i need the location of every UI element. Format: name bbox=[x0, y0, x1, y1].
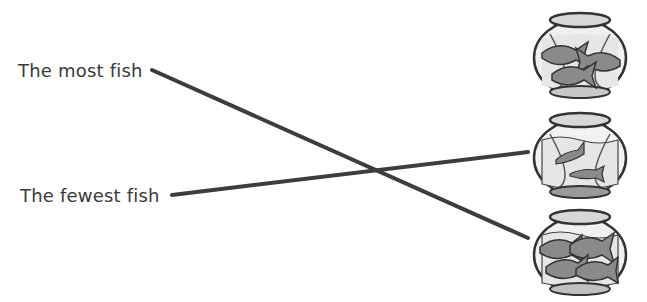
fishbowl-four-fish[interactable] bbox=[530, 205, 630, 297]
fishbowl-three-fish[interactable] bbox=[530, 8, 630, 100]
match-line-most bbox=[152, 70, 528, 238]
fish-icon bbox=[540, 233, 618, 283]
fishbowl-two-fish[interactable] bbox=[530, 108, 630, 200]
